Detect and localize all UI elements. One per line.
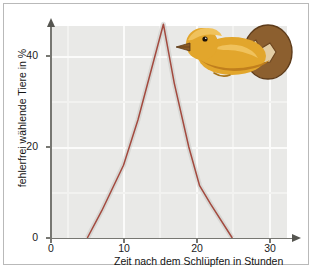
chick-hatching-icon [172, 16, 294, 82]
x-tick-label-10: 10 [111, 242, 137, 254]
y-tick-40 [46, 55, 51, 57]
x-axis-title: Zeit nach dem Schlüpfen in Stunden [114, 255, 283, 267]
y-tick-20 [46, 146, 51, 148]
y-axis-arrow [47, 18, 55, 27]
x-axis-line [50, 238, 295, 240]
y-axis-line [50, 26, 52, 239]
figure-frame: 40 20 0 0 10 20 30 fehlerfrei wählende T… [3, 3, 309, 265]
y-tick-label-0: 0 [16, 231, 38, 243]
x-tick-label-0: 0 [38, 242, 64, 254]
y-axis-title: fehlerfrei wählende Tiere in % [16, 32, 28, 204]
x-axis-arrow [292, 234, 301, 242]
x-tick-label-20: 20 [184, 242, 210, 254]
x-tick-label-30: 30 [257, 242, 283, 254]
